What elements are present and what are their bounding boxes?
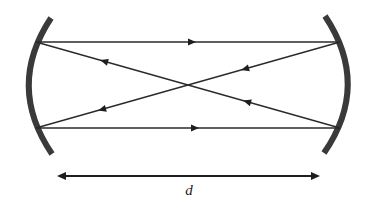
right-mirror [324, 16, 348, 153]
top-ray-arrow-icon [188, 39, 196, 46]
diagonal-ray-2-arrow-icon [242, 97, 252, 106]
diagonal-ray-1-arrow-icon-2 [97, 105, 107, 114]
diagonal-ray-1-arrow-icon [240, 65, 250, 74]
diagonal-ray-2-arrow-icon-2 [99, 57, 109, 66]
dimension-right-arrow-icon [311, 172, 320, 180]
resonator-diagram: d [0, 0, 377, 208]
left-mirror [29, 18, 52, 154]
bottom-ray-arrow-icon [191, 125, 199, 132]
dimension-left-arrow-icon [57, 172, 66, 180]
dimension-label: d [185, 182, 193, 198]
